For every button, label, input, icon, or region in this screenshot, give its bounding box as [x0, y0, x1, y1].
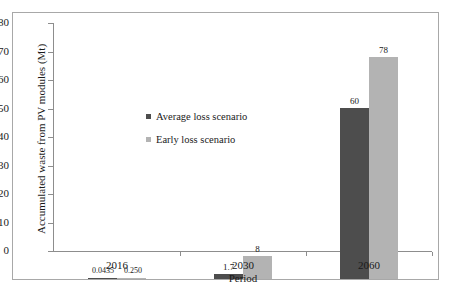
legend-swatch-icon [146, 137, 151, 142]
y-tick-mark [48, 137, 54, 138]
bar-group-2060: 60 78 [340, 51, 398, 279]
x-category-label-2016: 2016 [77, 259, 157, 271]
y-tick-label: 30 [0, 159, 9, 171]
y-tick-0: 0 [13, 251, 54, 252]
x-tick-mark [432, 252, 433, 256]
chart-legend: Average loss scenario Early loss scenari… [146, 111, 247, 157]
y-tick-50: 50 [13, 109, 54, 110]
legend-item-early-loss[interactable]: Early loss scenario [146, 134, 247, 145]
y-tick-10: 10 [13, 223, 54, 224]
bar-early-2060[interactable] [369, 57, 398, 279]
y-tick-label: 10 [0, 216, 9, 228]
bar-group-2016: 0.0435 0.250 [88, 51, 146, 279]
legend-label: Average loss scenario [156, 111, 247, 122]
y-tick-mark [48, 109, 54, 110]
y-tick-label: 80 [0, 16, 9, 28]
y-tick-mark [48, 80, 54, 81]
bar-value-label: 8 [248, 244, 267, 254]
y-tick-mark [48, 223, 54, 224]
y-tick-mark [48, 52, 54, 53]
y-tick-mark [48, 251, 54, 252]
x-tick-mark [180, 252, 181, 256]
x-tick-mark [306, 252, 307, 256]
y-tick-mark [48, 194, 54, 195]
figure-container: Accumulated waste from PV modules (Mt) 8… [0, 0, 453, 296]
x-category-label-2030: 2030 [203, 259, 283, 271]
y-tick-mark [48, 23, 54, 24]
y-tick-70: 70 [13, 52, 54, 53]
y-tick-40: 40 [13, 137, 54, 138]
bar-value-label: 78 [374, 45, 393, 55]
bar-early-2016[interactable] [117, 278, 146, 279]
y-tick-mark [48, 166, 54, 167]
y-tick-label: 60 [0, 73, 9, 85]
y-tick-label: 0 [4, 244, 10, 256]
y-tick-20: 20 [13, 194, 54, 195]
x-category-label-2060: 2060 [329, 259, 409, 271]
y-tick-label: 20 [0, 187, 9, 199]
y-tick-label: 50 [0, 102, 9, 114]
bar-group-2030: 1.7 8 [214, 51, 272, 279]
y-tick-label: 40 [0, 130, 9, 142]
x-axis-title: Period [203, 272, 283, 284]
chart-frame: Accumulated waste from PV modules (Mt) 8… [12, 12, 439, 280]
y-tick-30: 30 [13, 166, 54, 167]
y-tick-80: 80 [13, 23, 54, 24]
legend-swatch-icon [146, 114, 151, 119]
legend-item-average-loss[interactable]: Average loss scenario [146, 111, 247, 122]
bar-average-2016[interactable] [88, 278, 117, 279]
bar-average-2060[interactable] [340, 108, 369, 279]
bar-value-label: 60 [345, 96, 364, 106]
y-tick-label: 70 [0, 45, 9, 57]
y-tick-60: 60 [13, 80, 54, 81]
legend-label: Early loss scenario [156, 134, 235, 145]
